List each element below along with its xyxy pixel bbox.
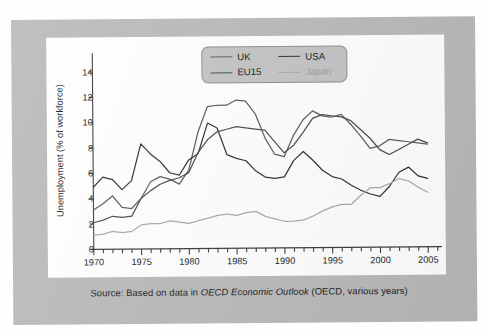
legend-label-japan: Japan [305, 67, 331, 77]
x-tick-1990: 1990 [263, 256, 307, 266]
x-tick-1985: 1985 [215, 256, 259, 266]
legend-swatch-japan [278, 71, 300, 72]
x-tick-2000: 2000 [359, 255, 403, 265]
legend-swatch-usa [278, 56, 300, 57]
legend-item-usa: USA [274, 51, 342, 61]
legend-item-uk: UK [206, 52, 274, 62]
caption-prefix: Source: Based on data in [90, 287, 200, 299]
figure-source-caption: Source: Based on data in OECD Economic O… [37, 284, 461, 298]
x-tick-1970: 1970 [72, 257, 116, 267]
x-tick-2005: 2005 [406, 255, 450, 265]
legend-label-usa: USA [305, 51, 325, 61]
caption-suffix: (OECD, various years) [309, 285, 408, 297]
legend-item-japan: Japan [274, 67, 342, 77]
legend-swatch-uk [210, 57, 232, 58]
x-tick-1975: 1975 [120, 257, 164, 267]
chart-plot-area: Unemployment (% of workforce) 0246810121… [46, 35, 446, 278]
legend-item-eu15: EU15 [206, 67, 274, 77]
x-tick-1980: 1980 [167, 256, 211, 266]
caption-italic-title: OECD Economic Outlook [201, 286, 309, 298]
figure-root: Unemployment (% of workforce) 0246810121… [0, 0, 489, 336]
legend-label-uk: UK [237, 52, 250, 62]
legend-label-eu15: EU15 [237, 67, 261, 77]
figure-mount: Unemployment (% of workforce) 0246810121… [11, 16, 477, 325]
chart-legend: UK USA EU15 Japan [201, 45, 347, 83]
x-tick-1995: 1995 [311, 255, 355, 265]
legend-swatch-eu15 [210, 72, 232, 73]
chart-card: Unemployment (% of workforce) 0246810121… [46, 35, 446, 278]
